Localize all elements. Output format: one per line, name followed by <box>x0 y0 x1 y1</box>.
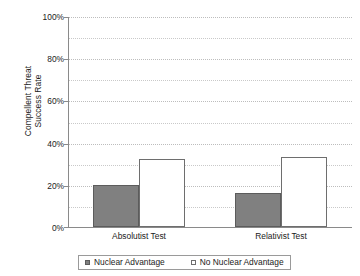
x-axis-category-label: Absolutist Test <box>68 231 210 242</box>
y-axis-tickmark <box>64 227 68 228</box>
x-axis-category-labels: Absolutist TestRelativist Test <box>68 231 352 245</box>
x-axis-line <box>68 227 352 228</box>
y-axis-tick-label: 100% <box>22 13 64 21</box>
y-axis-tick-label: 60% <box>22 97 64 105</box>
chart-legend: Nuclear AdvantageNo Nuclear Advantage <box>78 255 291 270</box>
legend-item-label: Nuclear Advantage <box>94 258 165 266</box>
gridline-minor <box>69 80 352 81</box>
bar <box>235 193 281 227</box>
gridline-major <box>69 101 352 102</box>
y-axis-tick-labels: 0%20%40%60%80%100% <box>22 17 64 228</box>
bar <box>281 157 327 227</box>
y-axis-tickmark <box>64 101 68 102</box>
bar <box>93 185 139 227</box>
y-axis-tick-label: 80% <box>22 55 64 63</box>
legend-item[interactable]: Nuclear Advantage <box>85 258 165 266</box>
legend-item-label: No Nuclear Advantage <box>200 258 284 266</box>
x-axis-category-label: Relativist Test <box>210 231 352 242</box>
y-axis-tickmark <box>64 59 68 60</box>
legend-item[interactable]: No Nuclear Advantage <box>191 258 284 266</box>
gridline-major <box>69 17 352 18</box>
gridline-minor <box>69 38 352 39</box>
y-axis-tickmark <box>64 17 68 18</box>
bar-chart: Compellent Threat Success Rate 0%20%40%6… <box>0 0 360 276</box>
y-axis-tickmark <box>64 186 68 187</box>
y-axis-tick-label: 0% <box>22 224 64 232</box>
y-axis-tick-label: 40% <box>22 139 64 147</box>
bar <box>139 159 185 227</box>
legend-swatch-icon <box>191 260 196 265</box>
y-axis-tick-label: 20% <box>22 182 64 190</box>
gridline-minor <box>69 123 352 124</box>
y-axis-tickmark <box>64 144 68 145</box>
legend-swatch-icon <box>85 260 90 265</box>
gridline-major <box>69 144 352 145</box>
plot-area <box>68 17 352 228</box>
gridline-major <box>69 59 352 60</box>
